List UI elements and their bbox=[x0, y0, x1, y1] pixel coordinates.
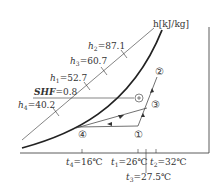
point-3-label: ③ bbox=[151, 100, 160, 110]
process-line-1-4 bbox=[78, 126, 138, 127]
arrow-icon bbox=[118, 115, 124, 119]
t1-label: t1=26℃ bbox=[111, 158, 148, 168]
t4-label: t4=16℃ bbox=[66, 158, 103, 168]
h3-tick bbox=[101, 67, 107, 75]
shf-label: SHF=0.8 bbox=[34, 88, 77, 97]
h3-label: h3=60.7 bbox=[70, 57, 107, 67]
h2-label: h2=87.1 bbox=[88, 42, 125, 52]
arrow-icon bbox=[141, 113, 145, 117]
arrow-icon bbox=[150, 88, 154, 93]
enthalpy-axis-label: h[kJ/kg] bbox=[153, 20, 189, 29]
h1-label: h1=52.7 bbox=[50, 74, 87, 84]
t3-label: t3=27.5℃ bbox=[126, 173, 171, 183]
t2-label: t2=32℃ bbox=[150, 158, 187, 168]
point-4-label: ④ bbox=[78, 130, 87, 140]
point-2-label: ② bbox=[155, 67, 164, 77]
arrow-icon bbox=[107, 122, 112, 126]
point-1-label: ① bbox=[134, 130, 143, 140]
h4-label: h4=40.2 bbox=[18, 101, 55, 111]
